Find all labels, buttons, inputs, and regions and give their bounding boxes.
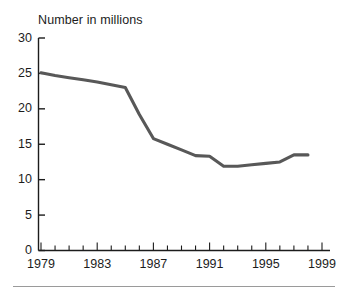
x-tick-label: 1979 bbox=[21, 258, 61, 271]
x-tick-label: 1995 bbox=[246, 258, 286, 271]
y-tick-label: 15 bbox=[6, 138, 32, 151]
line-chart-plot bbox=[0, 0, 346, 299]
x-axis-ticks bbox=[41, 243, 322, 251]
y-tick-label: 30 bbox=[6, 32, 32, 45]
x-tick-label: 1999 bbox=[302, 258, 342, 271]
y-tick-label: 5 bbox=[6, 209, 32, 222]
y-tick-label: 10 bbox=[6, 173, 32, 186]
y-tick-label: 20 bbox=[6, 102, 32, 115]
x-tick-label: 1991 bbox=[190, 258, 230, 271]
y-axis-ticks bbox=[39, 38, 46, 251]
x-tick-label: 1987 bbox=[133, 258, 173, 271]
bottom-divider-rule bbox=[13, 286, 335, 287]
y-tick-label: 25 bbox=[6, 67, 32, 80]
data-series-line bbox=[41, 73, 308, 167]
y-tick-label: 0 bbox=[6, 244, 32, 257]
x-tick-label: 1983 bbox=[77, 258, 117, 271]
chart-figure: Number in millions 051015202530 19791983… bbox=[0, 0, 346, 299]
